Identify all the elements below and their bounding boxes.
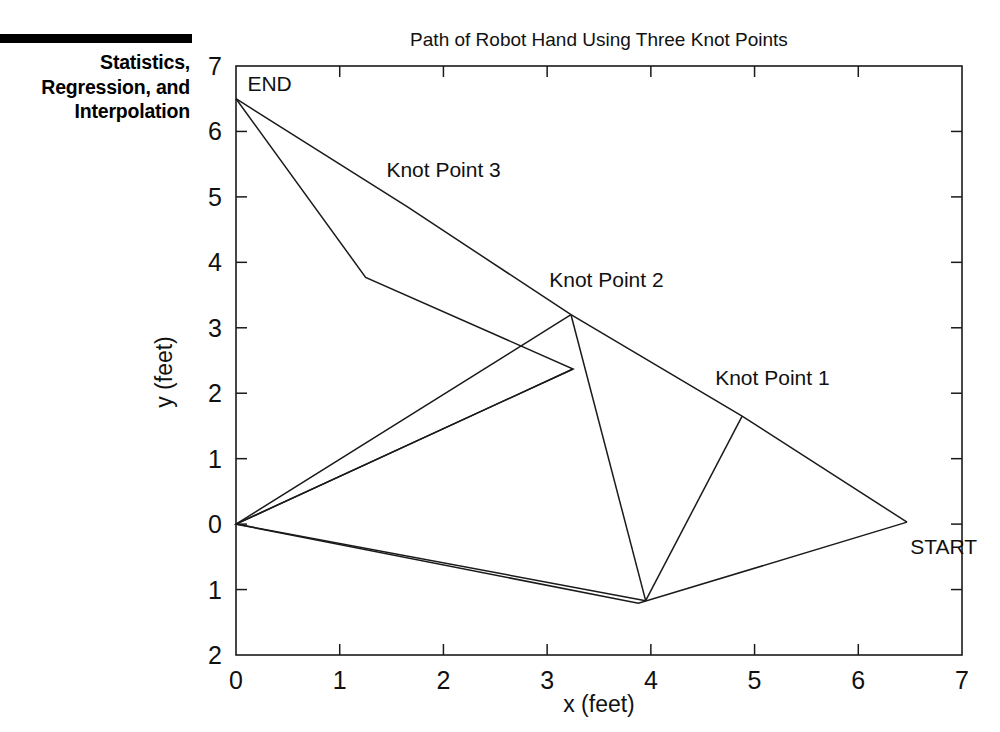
y-tick-label: 0 bbox=[208, 510, 222, 538]
x-tick-label: 3 bbox=[540, 666, 554, 694]
x-tick-label: 4 bbox=[644, 666, 658, 694]
plot-canvas: Path of Robot Hand Using Three Knot Poin… bbox=[0, 0, 1000, 732]
path-robot-hand-path-chords-segment bbox=[646, 416, 742, 601]
x-axis-ticks bbox=[340, 66, 859, 655]
path-robot-hand-path-outbound bbox=[236, 99, 907, 522]
start-label: START bbox=[910, 535, 977, 558]
y-axis-label: y (feet) bbox=[151, 336, 177, 408]
knot-point-1-label: Knot Point 1 bbox=[715, 366, 829, 389]
y-tick-label: 4 bbox=[208, 248, 222, 276]
y-axis-tick-labels: 2101234567 bbox=[208, 52, 222, 669]
plot-frame bbox=[236, 66, 962, 655]
x-tick-label: 5 bbox=[748, 666, 762, 694]
x-axis-tick-labels: 01234567 bbox=[229, 666, 969, 694]
x-tick-label: 6 bbox=[851, 666, 865, 694]
knot-point-2-label: Knot Point 2 bbox=[549, 268, 663, 291]
path-annotations-group: STARTKnot Point 1Knot Point 2Knot Point … bbox=[247, 72, 977, 558]
x-tick-label: 7 bbox=[955, 666, 969, 694]
y-tick-label: 7 bbox=[208, 52, 222, 80]
path-series-group bbox=[236, 99, 907, 604]
y-tick-label: 2 bbox=[208, 641, 222, 669]
x-tick-label: 2 bbox=[436, 666, 450, 694]
path-robot-hand-path-chords-segment bbox=[571, 315, 646, 601]
y-tick-label: 6 bbox=[208, 117, 222, 145]
path-robot-hand-path-chords-segment bbox=[236, 524, 646, 601]
path-robot-hand-path-chords-segment bbox=[236, 369, 573, 524]
y-tick-label: 2 bbox=[208, 379, 222, 407]
path-robot-hand-path-chords-segment bbox=[236, 315, 571, 524]
figure-title: Path of Robot Hand Using Three Knot Poin… bbox=[410, 29, 788, 50]
y-axis-ticks bbox=[236, 131, 962, 589]
y-tick-label: 3 bbox=[208, 314, 222, 342]
y-tick-label: 1 bbox=[208, 445, 222, 473]
y-tick-label: 5 bbox=[208, 183, 222, 211]
x-tick-label: 1 bbox=[333, 666, 347, 694]
x-tick-label: 0 bbox=[229, 666, 243, 694]
path-robot-hand-path-interpolated bbox=[236, 99, 907, 604]
y-tick-label: 1 bbox=[208, 576, 222, 604]
end-label: END bbox=[247, 72, 291, 95]
x-axis-label: x (feet) bbox=[563, 691, 635, 717]
figure-robot-hand-path: Path of Robot Hand Using Three Knot Poin… bbox=[0, 0, 1000, 732]
knot-point-3-label: Knot Point 3 bbox=[386, 158, 500, 181]
